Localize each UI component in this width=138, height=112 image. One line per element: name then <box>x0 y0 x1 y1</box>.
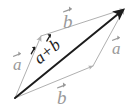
label-a-right-text: a <box>112 39 121 58</box>
label-b-top-text: b <box>63 11 73 32</box>
label-a-left: a <box>13 56 22 73</box>
label-b-top: b <box>63 12 73 31</box>
label-a-right: a <box>112 40 121 57</box>
label-b-bottom: b <box>57 88 67 107</box>
label-a-left-text: a <box>13 55 22 74</box>
vector-addition-figure: b a a <box>0 0 138 112</box>
label-b-bottom-text: b <box>57 87 67 108</box>
